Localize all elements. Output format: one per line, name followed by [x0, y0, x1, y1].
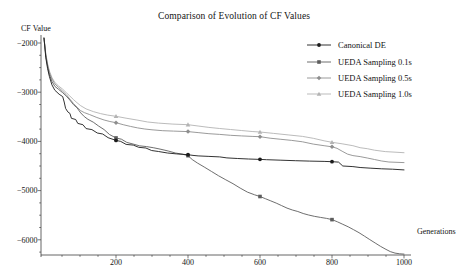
legend-label: Canonical DE	[338, 40, 386, 50]
svg-text:−6000: −6000	[17, 236, 38, 245]
svg-text:800: 800	[326, 258, 338, 267]
svg-text:600: 600	[254, 258, 266, 267]
legend: Canonical DE UEDA Sampling 0.1s UEDA Sam…	[306, 37, 412, 103]
legend-item-ueda-sampling-0-1s: UEDA Sampling 0.1s	[306, 53, 412, 69]
legend-label: UEDA Sampling 0.1s	[338, 57, 412, 67]
svg-text:200: 200	[110, 258, 122, 267]
svg-text:−2000: −2000	[17, 39, 38, 48]
legend-label: UEDA Sampling 1.0s	[338, 89, 412, 99]
chart-container: Comparison of Evolution of CF Values CF …	[0, 0, 468, 277]
line-diamond-marker-icon	[306, 73, 332, 83]
line-circle-marker-icon	[306, 40, 332, 50]
svg-text:−4000: −4000	[17, 137, 38, 146]
svg-text:−3000: −3000	[17, 88, 38, 97]
legend-label: UEDA Sampling 0.5s	[338, 73, 412, 83]
line-square-marker-icon	[306, 57, 332, 67]
svg-text:1000: 1000	[396, 258, 412, 267]
line-triangle-marker-icon	[306, 89, 332, 99]
legend-item-ueda-sampling-0-5s: UEDA Sampling 0.5s	[306, 70, 412, 86]
svg-text:400: 400	[182, 258, 194, 267]
svg-text:−5000: −5000	[17, 186, 38, 195]
legend-item-ueda-sampling-1-0s: UEDA Sampling 1.0s	[306, 86, 412, 102]
legend-item-canonical-de: Canonical DE	[306, 37, 412, 53]
